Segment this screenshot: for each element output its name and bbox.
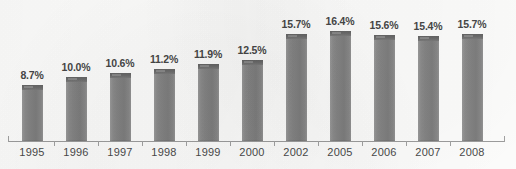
x-axis-left-endcap <box>8 136 9 142</box>
x-axis-category-label: 2000 <box>230 146 274 158</box>
bar-value-label: 16.4% <box>318 15 362 27</box>
bar[interactable] <box>66 77 87 141</box>
bar[interactable] <box>286 34 307 141</box>
x-axis-category-label: 1998 <box>142 146 186 158</box>
bar[interactable] <box>330 31 351 141</box>
bar-value-label: 11.2% <box>142 53 186 65</box>
x-axis-right-endcap <box>504 136 505 142</box>
x-axis-category-label: 2002 <box>274 146 318 158</box>
bar[interactable] <box>374 35 395 141</box>
x-axis-category-label: 2005 <box>318 146 362 158</box>
bar[interactable] <box>198 64 219 141</box>
bar[interactable] <box>418 36 439 141</box>
bar-value-label: 15.7% <box>450 18 494 30</box>
bar[interactable] <box>110 73 131 141</box>
x-axis-category-label: 2007 <box>406 146 450 158</box>
x-axis-category-label: 1995 <box>10 146 54 158</box>
x-axis-category-label: 2008 <box>450 146 494 158</box>
bar[interactable] <box>462 34 483 141</box>
x-axis-category-label: 1997 <box>98 146 142 158</box>
bar[interactable] <box>22 85 43 141</box>
bar-value-label: 10.6% <box>98 57 142 69</box>
x-axis-category-label: 1996 <box>54 146 98 158</box>
bar-value-label: 15.6% <box>362 19 406 31</box>
bar[interactable] <box>154 69 175 141</box>
bar-value-label: 10.0% <box>54 61 98 73</box>
bar-chart: 8.7% 10.0% 10.6% 11.2% 11.9% 12.5% 15.7% <box>0 0 516 169</box>
bar-value-label: 12.5% <box>230 44 274 56</box>
x-axis-line <box>8 141 505 142</box>
x-axis-category-label: 1999 <box>186 146 230 158</box>
plot-area: 8.7% 10.0% 10.6% 11.2% 11.9% 12.5% 15.7% <box>0 0 516 169</box>
bar-value-label: 15.7% <box>274 18 318 30</box>
bar-value-label: 15.4% <box>406 20 450 32</box>
x-axis-category-label: 2006 <box>362 146 406 158</box>
bar-value-label: 11.9% <box>186 48 230 60</box>
bar-value-label: 8.7% <box>10 69 54 81</box>
bar[interactable] <box>242 60 263 141</box>
